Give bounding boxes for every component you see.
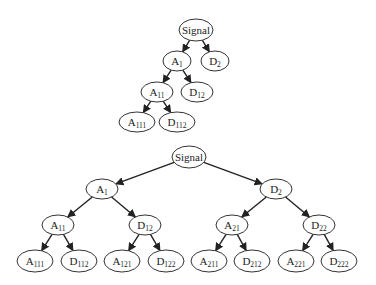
edge-a21-to-d212 [237, 234, 246, 250]
node-a121: A121 [104, 250, 140, 272]
node-a1: A1 [86, 179, 118, 199]
node-a21: A21 [216, 215, 248, 235]
edge-d12-to-d122 [150, 234, 159, 250]
edge-d2-to-d22 [286, 197, 310, 217]
wavelet-diagram: SignalA1D2A11D12A111D112SignalA1D2A11D12… [0, 0, 376, 285]
node-a111: A111 [119, 112, 155, 132]
edge-d22-to-d222 [324, 234, 333, 250]
node-d12: D12 [129, 215, 161, 235]
node-d122: D122 [148, 250, 184, 272]
edge-a11-to-a111 [143, 101, 151, 112]
edge-d2-to-a21 [242, 197, 267, 217]
node-a221: A221 [278, 250, 314, 272]
node-a211: A211 [191, 250, 227, 272]
edge-signal-to-a1 [183, 40, 190, 52]
node-a11: A11 [42, 215, 74, 235]
node-d222: D222 [321, 250, 357, 272]
node-label: Signal [175, 151, 203, 163]
edge-d12-to-a121 [129, 234, 140, 250]
node-signal: Signal [179, 19, 213, 41]
node-d112: D112 [159, 112, 195, 132]
node-d22: D22 [303, 215, 335, 235]
edge-a21-to-a211 [216, 234, 227, 250]
node-d2: D2 [260, 179, 292, 199]
edge-signal-to-d2 [202, 40, 209, 52]
wavelet-decomposition-tree: SignalA1D2A11D12A111D112 [119, 19, 229, 132]
node-a111: A111 [17, 250, 53, 272]
edge-signal-to-d2 [204, 162, 262, 183]
node-a11: A11 [141, 82, 173, 102]
node-d112: D112 [61, 250, 97, 272]
node-d12: D12 [181, 82, 213, 102]
edge-a1-to-a11 [163, 70, 171, 83]
edge-a1-to-a11 [68, 197, 93, 217]
node-d2: D2 [201, 51, 229, 71]
edge-d22-to-a221 [303, 234, 314, 250]
node-label: Signal [182, 24, 210, 36]
edge-a11-to-d112 [63, 234, 72, 250]
node-d212: D212 [234, 250, 270, 272]
node-a1: A1 [163, 51, 191, 71]
edge-a11-to-a111 [42, 234, 53, 250]
wavelet-packet-tree: SignalA1D2A11D12A21D22A111D112A121D122A2… [17, 146, 357, 272]
node-signal: Signal [172, 146, 206, 168]
edge-a11-to-d112 [163, 101, 171, 112]
edge-a1-to-d12 [112, 197, 136, 217]
edge-a1-to-d12 [183, 70, 191, 83]
edge-signal-to-a1 [116, 162, 174, 183]
